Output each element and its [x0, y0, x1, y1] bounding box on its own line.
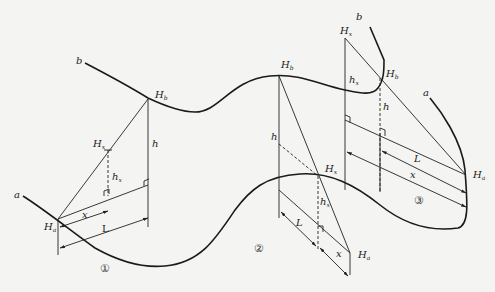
- case2-h-label: h: [271, 131, 277, 142]
- case3-a-label: a: [423, 87, 429, 98]
- case2-x-label: x: [336, 248, 342, 259]
- case1-hx-height-label: hx: [112, 171, 122, 183]
- case2-hb-label: Hb: [280, 59, 294, 71]
- case1-L-label: L: [102, 223, 109, 234]
- case3-ha-label: Ha: [472, 169, 486, 181]
- terrain-profile-diagram: b a Hb Hx h hx Ha x L ① Hb h Hx hx L x H…: [0, 0, 495, 292]
- case3-b-label: b: [356, 11, 362, 22]
- case2-hx-height-label: hx: [320, 196, 330, 208]
- case1-ha-label: Ha: [43, 221, 57, 233]
- case2-number: ②: [254, 242, 264, 255]
- case1-hb-label: Hb: [154, 89, 168, 101]
- case3-number: ③: [414, 194, 424, 207]
- case3-L-label: L: [413, 153, 421, 164]
- curve-end-b-label: b: [76, 55, 82, 66]
- case1-number: ①: [100, 262, 110, 275]
- case3-h-label: h: [383, 101, 389, 112]
- case3-hb-label: Hb: [385, 68, 399, 80]
- case3-hx-height-label: hx: [349, 74, 359, 86]
- curve-end-a-label: a: [14, 189, 20, 200]
- case2-ha-label: Ha: [357, 249, 371, 261]
- case3-x-label: x: [410, 169, 416, 180]
- case2-L-label: L: [295, 217, 303, 228]
- case-2-construction: [279, 76, 350, 276]
- case2-hx-point-label: Hx: [324, 163, 338, 175]
- main-terrain-curve: [23, 27, 467, 266]
- case1-x-label: x: [82, 209, 88, 220]
- case3-hx-point-label: Hx: [339, 25, 353, 37]
- case1-hx-label: Hx: [92, 138, 106, 150]
- case1-h-label: h: [152, 138, 158, 149]
